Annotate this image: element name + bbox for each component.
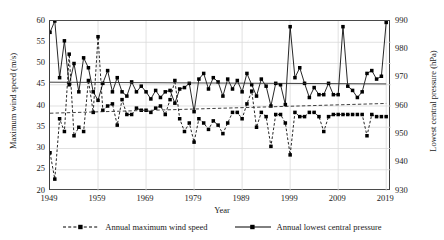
data-point-marker bbox=[53, 177, 57, 181]
data-point-marker bbox=[50, 31, 52, 35]
data-point-marker bbox=[63, 130, 67, 134]
data-point-marker bbox=[308, 96, 312, 100]
data-point-marker bbox=[327, 115, 331, 119]
data-point-marker bbox=[115, 123, 119, 127]
data-point-marker bbox=[312, 111, 316, 115]
data-point-marker bbox=[356, 113, 360, 117]
data-point-marker bbox=[67, 83, 71, 87]
data-point-marker bbox=[212, 76, 216, 80]
data-point-marker bbox=[351, 89, 355, 93]
data-point-marker bbox=[293, 76, 297, 80]
data-point-marker bbox=[192, 110, 196, 114]
y-axis-right-tick-label: 980 bbox=[395, 43, 425, 53]
data-point-marker bbox=[72, 134, 76, 138]
chart-figure: Maximum wind speed (m/s) Lowest central … bbox=[0, 0, 444, 240]
y-axis-right-tick-label: 970 bbox=[395, 71, 425, 81]
x-axis-tick-label: 1979 bbox=[173, 193, 213, 203]
data-point-marker bbox=[365, 134, 369, 138]
data-point-marker bbox=[231, 111, 235, 115]
data-point-marker bbox=[164, 90, 168, 94]
data-point-marker bbox=[111, 90, 115, 94]
legend-item[interactable]: Annual maximum wind speed bbox=[62, 222, 207, 232]
legend-item[interactable]: Annual lowest central pressure bbox=[234, 222, 382, 232]
data-point-marker bbox=[173, 79, 177, 83]
data-point-marker bbox=[58, 117, 62, 121]
y-axis-left-tick-label: 40 bbox=[19, 100, 45, 110]
data-point-marker bbox=[279, 113, 283, 117]
data-point-marker bbox=[87, 79, 91, 83]
data-point-marker bbox=[96, 35, 100, 39]
data-point-marker bbox=[221, 132, 225, 136]
data-point-marker bbox=[255, 126, 259, 130]
data-point-marker bbox=[154, 89, 158, 93]
data-point-marker bbox=[192, 140, 196, 144]
y-axis-right-tick-label: 960 bbox=[395, 100, 425, 110]
x-axis-title: Year bbox=[0, 205, 444, 215]
data-point-marker bbox=[144, 90, 148, 94]
data-point-marker bbox=[240, 117, 244, 121]
data-point-marker bbox=[288, 25, 292, 29]
x-axis-tick-label: 1999 bbox=[269, 193, 309, 203]
data-point-marker bbox=[82, 130, 86, 134]
data-point-marker bbox=[67, 52, 71, 56]
data-point-marker bbox=[130, 80, 134, 84]
y-axis-left-tick-label: 25 bbox=[19, 163, 45, 173]
data-point-marker bbox=[380, 115, 384, 119]
data-point-marker bbox=[188, 121, 192, 125]
data-point-marker bbox=[360, 90, 364, 94]
x-axis-tick-label: 1969 bbox=[125, 193, 165, 203]
data-point-marker bbox=[82, 56, 86, 60]
data-point-marker bbox=[58, 76, 62, 80]
data-point-marker bbox=[346, 113, 350, 117]
data-point-marker bbox=[303, 115, 307, 119]
y-axis-left-tick-label: 50 bbox=[19, 57, 45, 67]
data-point-marker bbox=[274, 113, 278, 117]
data-point-marker bbox=[264, 115, 268, 119]
data-point-marker bbox=[375, 77, 379, 81]
data-point-marker bbox=[370, 69, 374, 73]
data-point-marker bbox=[317, 93, 321, 97]
data-point-marker bbox=[346, 84, 350, 88]
data-point-marker bbox=[168, 89, 172, 93]
data-point-marker bbox=[231, 87, 235, 91]
data-point-marker bbox=[245, 72, 249, 76]
data-point-marker bbox=[293, 111, 297, 115]
data-point-marker bbox=[125, 94, 129, 98]
data-point-marker bbox=[53, 21, 57, 23]
data-point-marker bbox=[370, 113, 374, 117]
data-point-marker bbox=[87, 66, 91, 70]
data-point-marker bbox=[351, 113, 355, 117]
data-point-marker bbox=[356, 96, 360, 100]
y-axis-left-tick-label: 60 bbox=[19, 15, 45, 25]
data-point-marker bbox=[197, 117, 201, 121]
data-point-marker bbox=[322, 93, 326, 97]
y-axis-right-tick-label: 990 bbox=[395, 15, 425, 25]
data-point-marker bbox=[245, 102, 249, 106]
data-point-marker bbox=[380, 75, 384, 79]
data-point-marker bbox=[168, 98, 172, 102]
data-point-marker bbox=[72, 62, 76, 66]
data-point-marker bbox=[312, 86, 316, 90]
data-point-marker bbox=[236, 111, 240, 115]
data-point-marker bbox=[207, 128, 211, 132]
y-axis-right-tick-label: 950 bbox=[395, 128, 425, 138]
data-point-marker bbox=[284, 121, 288, 125]
x-axis-tick-label: 1989 bbox=[221, 193, 261, 203]
data-point-marker bbox=[269, 145, 273, 149]
x-axis-tick-label: 2019 bbox=[365, 193, 405, 203]
data-point-marker bbox=[226, 121, 230, 125]
data-point-marker bbox=[341, 25, 345, 29]
legend-key-windspeed bbox=[62, 222, 100, 232]
legend-key-marker bbox=[79, 225, 83, 229]
data-point-marker bbox=[336, 113, 340, 117]
data-point-marker bbox=[255, 94, 259, 98]
data-point-marker bbox=[183, 130, 187, 134]
data-point-marker bbox=[120, 98, 124, 102]
data-point-marker bbox=[202, 72, 206, 76]
y-axis-left-tick-label: 35 bbox=[19, 121, 45, 131]
data-point-marker bbox=[336, 93, 340, 97]
y-axis-left-tick-label: 55 bbox=[19, 36, 45, 46]
data-point-marker bbox=[212, 119, 216, 123]
data-point-marker bbox=[207, 87, 211, 91]
data-point-marker bbox=[178, 87, 182, 91]
